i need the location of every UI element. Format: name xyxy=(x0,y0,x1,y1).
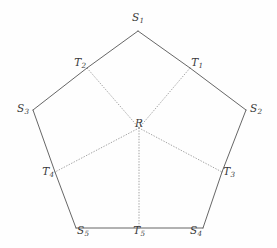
vertex-label-subscript: 3 xyxy=(230,170,235,179)
solid-edge-s3-t2 xyxy=(33,68,87,110)
vertex-label-subscript: 1 xyxy=(198,61,203,70)
vertex-label-base: T xyxy=(133,224,140,236)
solid-edge-group xyxy=(33,31,246,228)
vertex-label-subscript: 4 xyxy=(198,229,203,238)
vertex-label-r: R xyxy=(135,118,143,129)
pentagon-figure: S1T1S2T3S4T5S5T4S3T2R xyxy=(0,0,277,248)
solid-edge-s1-t1 xyxy=(138,31,190,68)
vertex-label-s4: S4 xyxy=(190,225,202,236)
vertex-label-s3: S3 xyxy=(17,103,29,114)
vertex-label-t4: T4 xyxy=(42,166,54,177)
vertex-label-subscript: 5 xyxy=(85,229,90,238)
solid-edge-t1-s2 xyxy=(190,68,246,110)
solid-edge-s5-t4 xyxy=(55,172,76,228)
dotted-edge-r-t2 xyxy=(87,68,139,128)
vertex-label-t2: T2 xyxy=(74,57,86,68)
vertex-label-t1: T1 xyxy=(191,57,203,68)
vertex-label-base: R xyxy=(135,117,143,129)
solid-edge-t2-s1 xyxy=(87,31,138,68)
vertex-label-s5: S5 xyxy=(77,225,89,236)
vertex-label-subscript: 5 xyxy=(140,229,145,238)
vertex-label-subscript: 4 xyxy=(49,170,54,179)
vertex-label-subscript: 2 xyxy=(81,61,86,70)
dotted-edge-group xyxy=(55,68,222,228)
solid-edge-t3-s4 xyxy=(203,172,222,228)
vertex-label-s2: S2 xyxy=(250,103,262,114)
vertex-label-subscript: 3 xyxy=(25,107,30,116)
vertex-label-subscript: 1 xyxy=(140,16,145,25)
dotted-edge-r-t1 xyxy=(139,68,190,128)
dotted-edge-r-t3 xyxy=(139,128,222,172)
vertex-label-base: T xyxy=(223,165,230,177)
dotted-edge-r-t4 xyxy=(55,128,139,172)
solid-edge-s2-t3 xyxy=(222,110,246,172)
vertex-label-t3: T3 xyxy=(223,166,235,177)
solid-edge-t4-s3 xyxy=(33,110,55,172)
vertex-label-base: T xyxy=(191,56,198,68)
vertex-label-t5: T5 xyxy=(133,225,145,236)
vertex-label-base: T xyxy=(42,165,49,177)
vertex-label-base: T xyxy=(74,56,81,68)
vertex-label-s1: S1 xyxy=(132,12,144,23)
vertex-label-subscript: 2 xyxy=(258,107,263,116)
